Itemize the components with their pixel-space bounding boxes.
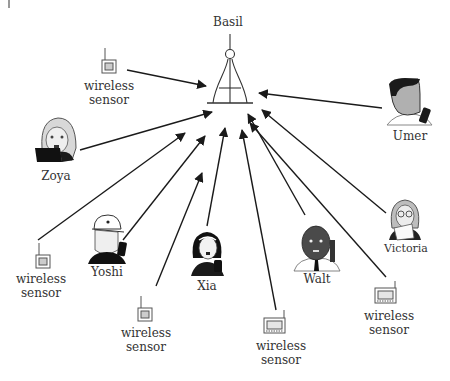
svg-text:wireless: wireless (364, 309, 414, 323)
arrow-yoshi (123, 136, 205, 240)
node-umer: Umer (387, 78, 432, 143)
node-sensor-bottom-mid: wireless sensor (256, 310, 306, 367)
node-zoya: Zoya (35, 118, 76, 183)
arrow-sensor-bottom-mid (242, 130, 276, 310)
node-victoria: Victoria (383, 200, 428, 255)
arrow-walt (248, 114, 305, 215)
person-umer-icon (387, 78, 432, 125)
svg-text:sensor: sensor (89, 93, 129, 107)
node-sensor-right: wireless sensor (364, 281, 414, 337)
svg-text:wireless: wireless (121, 326, 171, 340)
person-zoya-icon (35, 118, 76, 162)
node-sensor-left: wireless sensor (16, 243, 66, 300)
svg-text:wireless: wireless (84, 79, 134, 93)
radio-tower-icon (207, 34, 253, 103)
svg-text:sensor: sensor (369, 323, 409, 337)
svg-text:Walt: Walt (303, 272, 330, 286)
hub-basil: Basil (207, 15, 253, 103)
svg-text:Xia: Xia (197, 279, 217, 293)
svg-text:Yoshi: Yoshi (90, 265, 123, 279)
person-victoria-icon (389, 200, 421, 240)
arrow-umer (259, 93, 382, 108)
arrow-sensor-top (127, 70, 206, 86)
svg-text:wireless: wireless (16, 272, 66, 286)
svg-text:sensor: sensor (21, 286, 61, 300)
node-xia: Xia (191, 232, 224, 293)
arrow-xia (207, 128, 225, 226)
arrow-zoya (80, 112, 212, 150)
person-yoshi-icon (88, 215, 127, 264)
wireless-sensor-icon (36, 243, 50, 268)
svg-text:sensor: sensor (126, 340, 166, 354)
wireless-sensor-icon (264, 310, 285, 333)
hub-label: Basil (213, 15, 243, 29)
node-sensor-top: wireless sensor (84, 48, 134, 107)
svg-text:wireless: wireless (256, 339, 306, 353)
person-xia-icon (191, 232, 224, 276)
node-walt: Walt (294, 226, 340, 286)
svg-text:Victoria: Victoria (383, 242, 428, 255)
network-diagram: Basil wireless sensor (0, 0, 450, 381)
arrow-victoria (262, 110, 386, 213)
svg-text:Zoya: Zoya (41, 169, 71, 183)
node-sensor-bottom-left: wireless sensor (121, 296, 171, 354)
person-walt-icon (294, 226, 340, 271)
wireless-sensor-icon (375, 281, 396, 303)
wireless-sensor-icon (138, 296, 152, 321)
node-yoshi: Yoshi (88, 215, 127, 279)
svg-text:Umer: Umer (393, 129, 428, 143)
wireless-sensor-icon (102, 48, 116, 73)
svg-text:sensor: sensor (261, 353, 301, 367)
